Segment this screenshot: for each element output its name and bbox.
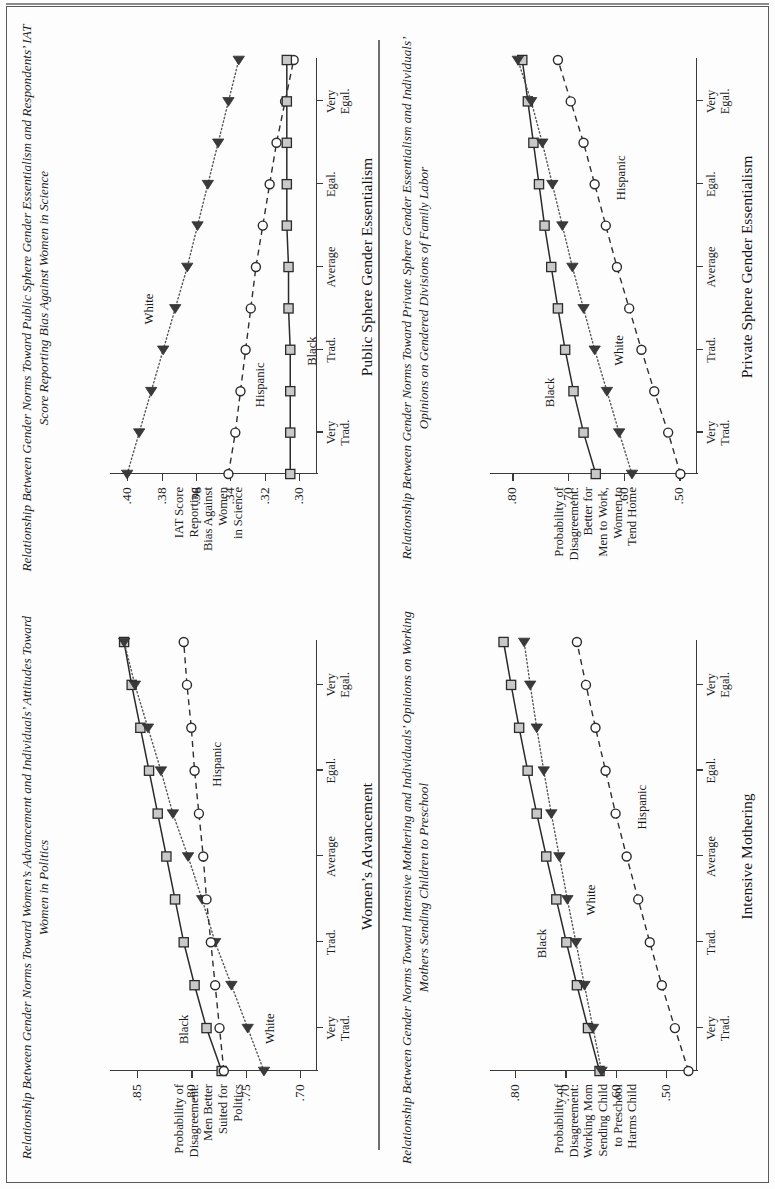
plot-area <box>18 18 386 578</box>
series-label-white: White <box>612 335 627 366</box>
data-point-circle <box>650 387 659 396</box>
data-point-circle <box>612 263 621 272</box>
data-point-triangle <box>145 387 156 396</box>
data-point-circle <box>622 852 631 861</box>
data-point-triangle <box>589 346 600 355</box>
series-label-hispanic: Hispanic <box>210 742 225 787</box>
series-label-hispanic: Hispanic <box>635 785 650 830</box>
series-line-white <box>127 60 239 474</box>
data-point-circle <box>206 938 215 947</box>
data-point-square <box>286 345 295 354</box>
data-point-square <box>162 852 171 861</box>
data-point-square <box>282 180 291 189</box>
data-point-triangle <box>518 638 529 647</box>
data-point-circle <box>601 221 610 230</box>
data-point-circle <box>581 680 590 689</box>
series-label-white: White <box>142 294 157 325</box>
data-point-circle <box>272 138 281 147</box>
data-point-square <box>282 138 291 147</box>
data-point-triangle <box>182 853 193 862</box>
plot-area <box>18 600 386 1175</box>
chart-private-sphere: Relationship Between Gender Norms Toward… <box>398 18 750 578</box>
data-point-circle <box>684 1067 693 1076</box>
data-point-triangle <box>242 1024 253 1033</box>
data-point-square <box>562 938 571 947</box>
data-point-square <box>523 766 532 775</box>
data-point-square <box>547 262 556 271</box>
data-point-circle <box>251 263 260 272</box>
data-point-square <box>507 680 516 689</box>
data-point-circle <box>611 809 620 818</box>
data-point-triangle <box>170 305 181 314</box>
data-point-triangle <box>578 305 589 314</box>
data-point-square <box>286 387 295 396</box>
chart-cell-intensive-mothering: Relationship Between Gender Norms Toward… <box>398 600 750 1175</box>
data-point-circle <box>553 56 562 65</box>
data-point-circle <box>202 895 211 904</box>
data-point-triangle <box>182 263 193 272</box>
data-point-circle <box>645 938 654 947</box>
data-point-circle <box>215 1024 224 1033</box>
series-label-hispanic: Hispanic <box>253 362 268 407</box>
data-point-triangle <box>626 470 637 479</box>
data-point-triangle <box>155 767 166 776</box>
data-point-triangle <box>121 470 132 479</box>
data-point-triangle <box>557 222 568 231</box>
data-point-circle <box>634 895 643 904</box>
data-point-triangle <box>531 724 542 733</box>
series-label-black: Black <box>177 1015 192 1044</box>
data-point-circle <box>246 304 255 313</box>
data-point-triangle <box>192 222 203 231</box>
data-point-circle <box>182 680 191 689</box>
data-point-square <box>591 469 600 478</box>
data-point-square <box>542 852 551 861</box>
plot-area <box>398 18 766 578</box>
data-point-circle <box>179 638 188 647</box>
data-point-triangle <box>167 810 178 819</box>
data-point-circle <box>670 1024 679 1033</box>
data-point-square <box>515 723 524 732</box>
data-point-square <box>552 895 561 904</box>
data-point-triangle <box>601 387 612 396</box>
data-point-circle <box>625 304 634 313</box>
data-point-circle <box>265 180 274 189</box>
data-point-circle <box>566 97 575 106</box>
data-point-triangle <box>562 896 573 905</box>
data-point-square <box>190 981 199 990</box>
data-point-circle <box>601 766 610 775</box>
data-point-triangle <box>133 429 144 438</box>
chart-cell-public-sphere: Relationship Between Gender Norms Toward… <box>18 18 370 578</box>
data-point-circle <box>236 387 245 396</box>
data-point-triangle <box>538 767 549 776</box>
chart-cell-womens-advancement: Relationship Between Gender Norms Toward… <box>18 600 370 1175</box>
data-point-triangle <box>202 180 213 189</box>
data-point-circle <box>591 723 600 732</box>
data-point-triangle <box>554 853 565 862</box>
data-point-triangle <box>524 681 535 690</box>
data-point-circle <box>637 345 646 354</box>
data-point-triangle <box>233 56 244 65</box>
data-point-square <box>282 55 291 64</box>
data-point-circle <box>194 809 203 818</box>
data-point-square <box>569 387 578 396</box>
plot-area <box>398 600 766 1175</box>
chart-intensive-mothering: Relationship Between Gender Norms Toward… <box>398 600 750 1175</box>
data-point-triangle <box>546 810 557 819</box>
series-label-white: White <box>584 885 599 916</box>
data-point-circle <box>664 428 673 437</box>
series-label-black: Black <box>305 336 320 365</box>
page-top-rule <box>6 3 769 5</box>
series-line-white <box>124 642 264 1071</box>
data-point-circle <box>187 723 196 732</box>
data-point-square <box>282 221 291 230</box>
chart-cell-private-sphere: Relationship Between Gender Norms Toward… <box>398 18 750 578</box>
data-point-square <box>553 304 562 313</box>
data-point-square <box>284 262 293 271</box>
data-point-circle <box>590 180 599 189</box>
data-point-square <box>153 809 162 818</box>
data-point-triangle <box>223 98 234 107</box>
data-point-square <box>170 895 179 904</box>
data-point-square <box>499 637 508 646</box>
data-point-circle <box>199 852 208 861</box>
data-point-triangle <box>226 981 237 990</box>
